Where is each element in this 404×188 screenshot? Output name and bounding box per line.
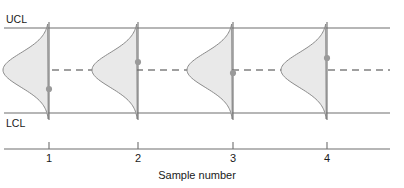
x-axis-title: Sample number: [158, 169, 236, 181]
sample-point-2: [135, 59, 141, 65]
spc-chart-canvas: 1234 UCL LCL Sample number: [0, 0, 404, 188]
sample-point-1: [46, 86, 52, 92]
x-tick-label-4: 4: [324, 152, 330, 164]
distribution-curve-sample-2: [92, 24, 137, 119]
sampling-distribution-curves: [3, 24, 326, 119]
distribution-curve-sample-3: [187, 24, 232, 119]
x-axis-ticks: [49, 142, 327, 149]
x-tick-label-3: 3: [230, 152, 236, 164]
distribution-curve-sample-1: [3, 24, 48, 119]
x-tick-label-2: 2: [135, 152, 141, 164]
sample-point-3: [230, 70, 236, 76]
distribution-curve-sample-4: [281, 24, 326, 119]
ucl-label: UCL: [6, 13, 27, 25]
spc-chart: 1234 UCL LCL Sample number: [0, 0, 404, 188]
lcl-label: LCL: [6, 117, 25, 129]
x-tick-label-1: 1: [46, 152, 52, 164]
x-axis-tick-labels: 1234: [46, 152, 330, 164]
sample-point-4: [324, 55, 330, 61]
